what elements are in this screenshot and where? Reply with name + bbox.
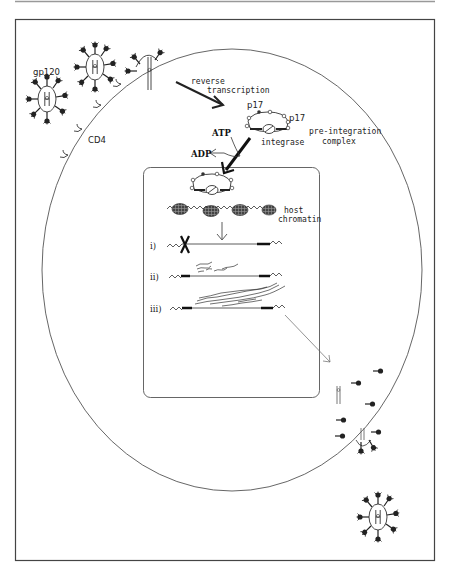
virion-fusing bbox=[125, 48, 166, 90]
label-preintegration: pre-integration bbox=[309, 127, 381, 136]
cd4-receptor bbox=[60, 150, 68, 158]
export-arrow bbox=[285, 315, 330, 362]
provirus-step-iii bbox=[170, 283, 285, 310]
label-gp120: gp120 bbox=[33, 67, 60, 77]
label-step-i: i) bbox=[150, 241, 156, 251]
virion-free-1 bbox=[26, 74, 69, 125]
label-step-ii: ii) bbox=[150, 272, 159, 282]
cell-membrane bbox=[42, 49, 422, 491]
label-reverse: reverse bbox=[191, 77, 225, 86]
provirus-step-i bbox=[167, 236, 282, 253]
hiv-lifecycle-diagram: gp120 CD4 reverse transcription p17 p17 … bbox=[0, 0, 449, 573]
preintegration-complex-nuclear bbox=[190, 172, 234, 194]
nucleosome bbox=[203, 206, 219, 217]
label-host: host bbox=[284, 206, 303, 215]
nucleosome bbox=[172, 204, 188, 215]
label-transcription: transcription bbox=[207, 86, 270, 95]
label-atp: ATP bbox=[211, 128, 231, 138]
label-integrase: integrase bbox=[261, 138, 305, 147]
preintegration-complex bbox=[245, 110, 290, 133]
cd4-receptor bbox=[74, 124, 82, 132]
provirus-step-ii bbox=[169, 262, 282, 278]
nucleosome bbox=[232, 205, 248, 216]
label-p17-top: p17 bbox=[247, 100, 263, 110]
host-chromatin bbox=[167, 204, 276, 217]
block-x-icon bbox=[181, 236, 189, 253]
label-cd4: CD4 bbox=[88, 135, 106, 145]
virion-free-2 bbox=[74, 42, 117, 93]
integration-arrow bbox=[217, 222, 227, 240]
budding-components bbox=[335, 368, 383, 454]
virion-budded bbox=[357, 492, 400, 543]
label-chromatin: chromatin bbox=[278, 215, 322, 224]
nucleus bbox=[144, 168, 320, 398]
label-p17-right: p17 bbox=[289, 113, 305, 123]
label-complex: complex bbox=[322, 137, 356, 146]
label-adp: ADP bbox=[190, 149, 212, 159]
figure-frame bbox=[16, 20, 435, 561]
label-step-iii: iii) bbox=[150, 304, 161, 314]
cd4-receptor bbox=[113, 79, 121, 87]
nucleosome bbox=[262, 205, 276, 215]
cd4-receptor bbox=[93, 100, 101, 108]
